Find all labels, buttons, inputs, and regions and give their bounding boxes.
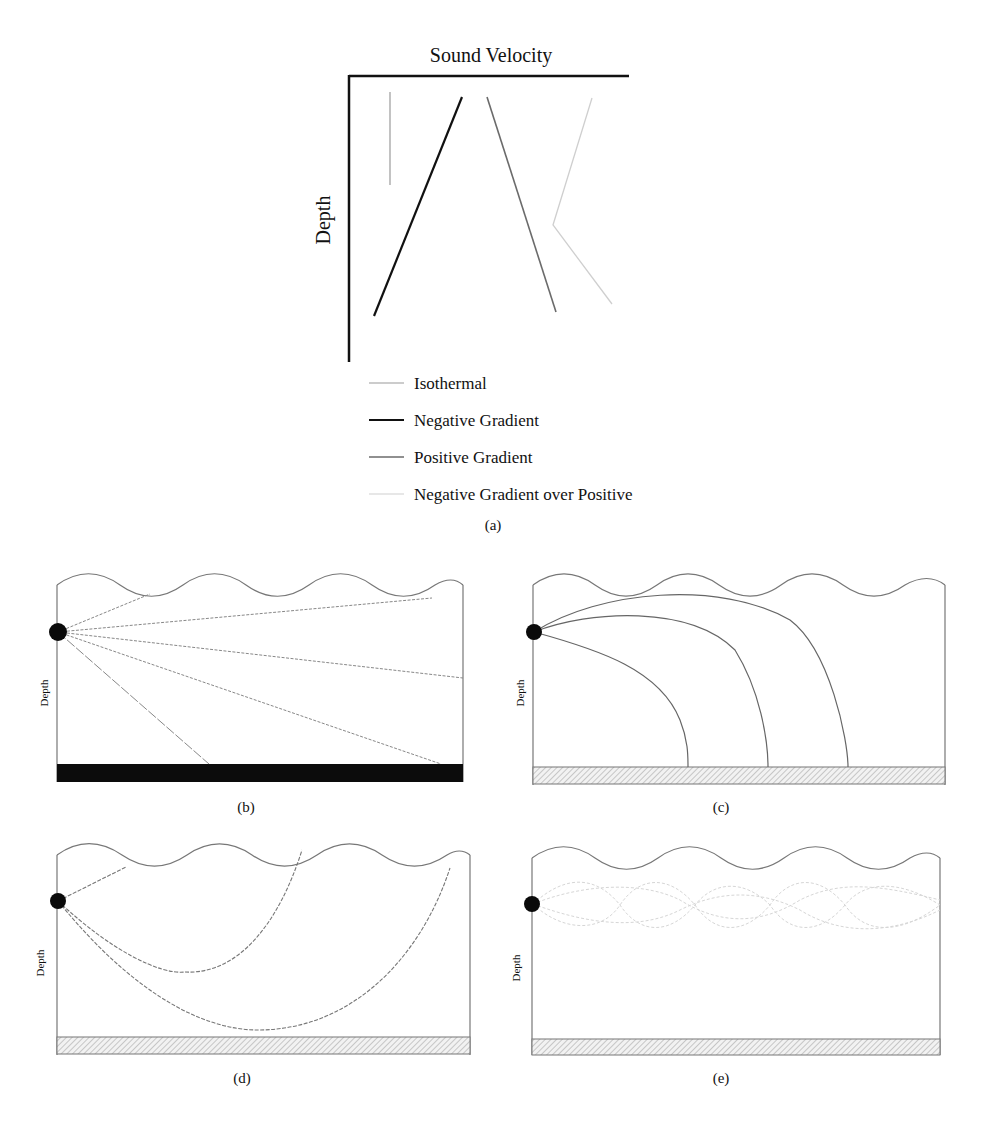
y-axis-label: Depth: [312, 196, 335, 245]
sound-source-icon: [50, 893, 66, 909]
sea-surface: [533, 574, 945, 597]
legend-label: Negative Gradient over Positive: [414, 485, 633, 504]
seafloor-hatched: [57, 1037, 470, 1054]
negative-over-positive-line: [553, 98, 612, 304]
sea-surface: [57, 574, 463, 597]
seafloor-hatched: [533, 767, 945, 784]
caption-a: (a): [485, 517, 502, 534]
panel-c-negative-gradient: Depth (c): [514, 574, 945, 816]
caption-d: (d): [233, 1070, 251, 1087]
panel-b-isothermal: Depth (b): [38, 574, 463, 816]
sound-source-icon: [49, 623, 67, 641]
caption-b: (b): [237, 799, 255, 816]
seafloor-solid: [57, 764, 463, 782]
panel-a-velocity-profile: Sound Velocity Depth Isothermal Negative…: [312, 44, 633, 534]
positive-gradient-line: [487, 97, 556, 312]
sound-source-icon: [526, 624, 542, 640]
sound-rays: [534, 595, 848, 767]
depth-label: Depth: [514, 679, 526, 706]
caption-c: (c): [713, 799, 730, 816]
legend-label: Isothermal: [414, 374, 487, 393]
sea-surface: [532, 847, 940, 870]
depth-label: Depth: [34, 949, 46, 976]
depth-label: Depth: [38, 679, 50, 706]
legend-label: Negative Gradient: [414, 411, 539, 430]
panel-d-positive-gradient: Depth (d): [34, 844, 470, 1087]
sound-propagation-diagram: Sound Velocity Depth Isothermal Negative…: [0, 0, 984, 1125]
legend: Isothermal Negative Gradient Positive Gr…: [369, 374, 633, 504]
legend-label: Positive Gradient: [414, 448, 533, 467]
depth-label: Depth: [510, 954, 522, 981]
sea-surface: [57, 844, 470, 867]
x-axis-label: Sound Velocity: [430, 44, 552, 67]
seafloor-hatched: [532, 1039, 940, 1055]
sound-rays: [58, 594, 463, 764]
negative-gradient-line: [374, 97, 462, 316]
caption-e: (e): [713, 1070, 730, 1087]
channeled-sound-rays: [533, 882, 940, 929]
sound-source-icon: [524, 896, 540, 912]
panel-e-sound-channel: Depth (e): [510, 847, 940, 1087]
sound-rays: [58, 850, 450, 1030]
